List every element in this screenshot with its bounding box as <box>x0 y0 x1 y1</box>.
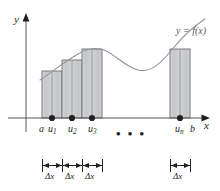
bar-rect-3 <box>82 49 102 118</box>
dot-u1 <box>49 115 55 121</box>
bar-rect-1 <box>42 71 62 118</box>
measure-label-dx-3: Δx <box>85 172 94 181</box>
tick-a-base: a <box>39 123 44 134</box>
tick-label-u2: u2 <box>68 124 77 136</box>
tick-label-u1: u1 <box>48 124 57 136</box>
measure-label-dx-1: Δx <box>45 172 54 181</box>
y-axis-label: y <box>14 14 19 25</box>
riemann-sum-figure: y x y = f(x) • • • a u1 u2 u3 un b Δx Δx… <box>0 0 220 191</box>
dot-un <box>177 115 183 121</box>
tick-label-u3: u3 <box>88 124 97 136</box>
tick-u1-subscript: 1 <box>53 128 57 136</box>
y-axis-arrow <box>23 13 30 22</box>
bar-rect-n <box>170 49 190 118</box>
tick-b-base: b <box>190 123 195 134</box>
tick-label-un: un <box>175 124 184 136</box>
measure-label-dx-2: Δx <box>65 172 74 181</box>
tick-label-b: b <box>190 124 195 134</box>
function-label: y = f(x) <box>176 26 206 36</box>
measure-label-dx-n: Δx <box>173 172 182 181</box>
tick-un-subscript: n <box>180 128 184 136</box>
ellipsis: • • • <box>116 126 146 142</box>
bracket-arrowheads <box>43 163 190 168</box>
tick-u3-subscript: 3 <box>93 128 97 136</box>
tick-u2-subscript: 2 <box>73 128 77 136</box>
x-axis-label: x <box>204 120 209 131</box>
bars-group <box>42 49 190 118</box>
bar-rect-2 <box>62 60 82 118</box>
dot-u3 <box>89 115 95 121</box>
dot-u2 <box>69 115 75 121</box>
tick-label-a: a <box>39 124 44 134</box>
